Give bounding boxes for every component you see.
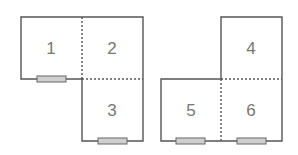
right-layout: 4 5 6 [161,17,282,144]
room-2-label: 2 [107,39,116,58]
room-6-label: 6 [246,101,255,120]
room-5-label: 5 [186,101,195,120]
door-room-3 [98,138,127,144]
door-room-5 [176,138,205,144]
left-layout: 1 2 3 [21,17,143,144]
room-1-label: 1 [46,39,55,58]
floor-plan-diagram: 1 2 3 4 5 6 [0,0,298,155]
room-3-label: 3 [107,101,116,120]
door-room-6 [237,138,266,144]
door-room-1 [37,76,66,82]
room-4-label: 4 [246,39,255,58]
